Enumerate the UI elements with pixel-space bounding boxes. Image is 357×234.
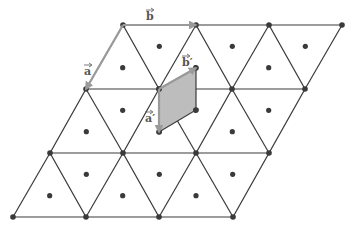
lattice-edge	[196, 89, 232, 153]
triangle-center-dot	[47, 193, 52, 198]
triangle-center-dot	[84, 172, 89, 177]
triangle-center-dot	[303, 44, 308, 49]
lattice-edge	[233, 153, 269, 217]
vector-b-prime-label: b′	[182, 54, 193, 69]
lattice-vertex	[229, 86, 235, 92]
vector-b-label: b	[146, 8, 154, 23]
lattice-vertex	[230, 214, 236, 220]
svg-text:a: a	[84, 65, 91, 78]
lattice-vertex	[339, 22, 345, 28]
triangle-center-dot	[120, 193, 125, 198]
triangle-center-dot	[120, 108, 125, 113]
lattice-edge	[159, 153, 196, 217]
triangle-center-dot	[230, 44, 235, 49]
lattice-edge	[232, 25, 269, 89]
lattice-vertex	[83, 214, 89, 220]
lattice-edge	[269, 89, 305, 153]
lattice-edge	[196, 153, 233, 217]
lattice-edge	[123, 153, 159, 217]
triangle-center-dot	[266, 108, 271, 113]
lattice-vertex	[10, 214, 16, 220]
lattice-edge	[50, 153, 86, 217]
vector-a-prime-label: a′	[145, 110, 155, 125]
triangle-center-dot	[157, 44, 162, 49]
lattice-edge	[305, 25, 342, 89]
vector-a-label: a	[84, 63, 92, 78]
lattice-edge	[232, 89, 269, 153]
triangle-center-dot	[193, 108, 198, 113]
lattice-edge	[86, 153, 123, 217]
triangle-center-dot	[84, 129, 89, 134]
svg-text:b: b	[146, 10, 154, 23]
lattice-vertex	[120, 150, 126, 156]
lattice-edge	[50, 89, 86, 153]
lattice-vertex	[47, 150, 53, 156]
lattice-vertex	[193, 150, 199, 156]
triangular-lattice-diagram: aba′b′	[0, 0, 357, 234]
lattice-edge	[123, 25, 159, 89]
lattice-vertex	[156, 214, 162, 220]
lattice-vertex	[302, 86, 308, 92]
triangle-center-dot	[266, 65, 271, 70]
triangle-center-dot	[230, 129, 235, 134]
lattice-vertex	[266, 22, 272, 28]
triangle-center-dot	[230, 172, 235, 177]
lattice-vertex	[266, 150, 272, 156]
lattice-edge	[196, 25, 232, 89]
vector-a-arrow-icon	[86, 25, 123, 89]
lattice-edge	[269, 25, 305, 89]
triangle-center-dot	[193, 193, 198, 198]
triangle-center-dot	[157, 172, 162, 177]
lattice-edge	[13, 153, 50, 217]
triangle-center-dot	[120, 65, 125, 70]
lattice-edge	[86, 89, 123, 153]
